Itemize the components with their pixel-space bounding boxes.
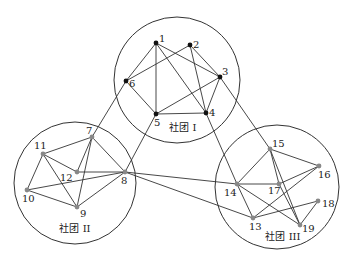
node-3-label: 3 <box>222 66 228 77</box>
node-19-label: 19 <box>302 223 315 234</box>
node-1 <box>154 41 159 46</box>
node-15-label: 15 <box>272 138 285 149</box>
node-13-label: 13 <box>249 221 262 232</box>
node-13 <box>251 216 256 221</box>
node-12 <box>75 170 80 175</box>
edge-11-10 <box>27 154 43 190</box>
node-2-label: 2 <box>193 39 199 50</box>
node-7-label: 7 <box>86 125 92 136</box>
community-I-label: 社团 I <box>169 121 196 133</box>
edge-11-12 <box>43 154 77 172</box>
node-2 <box>188 43 193 48</box>
community-network-diagram: 12345678910111213141516171819 社团 I社团 II社… <box>0 0 352 261</box>
edge-7-12 <box>77 137 92 172</box>
node-4-label: 4 <box>209 107 215 118</box>
node-14 <box>235 182 240 187</box>
edge-5-8 <box>125 114 156 172</box>
edge-3-15 <box>220 77 270 149</box>
edge-2-4 <box>190 45 206 113</box>
node-11-label: 11 <box>34 140 47 151</box>
node-11 <box>41 152 46 157</box>
node-6-label: 6 <box>129 78 135 89</box>
edge-15-14 <box>237 149 270 184</box>
node-8 <box>123 170 128 175</box>
edge-15-17 <box>270 149 279 184</box>
edge-15-16 <box>270 149 319 166</box>
edge-9-8 <box>77 172 125 207</box>
edge-17-19 <box>279 184 300 225</box>
node-18-label: 18 <box>322 198 335 209</box>
edge-4-14 <box>206 113 237 184</box>
edge-2-6 <box>126 45 190 81</box>
community-III-label: 社团 III <box>265 230 300 242</box>
edge-1-6 <box>126 43 156 81</box>
edge-1-3 <box>156 43 220 77</box>
node-5-label: 5 <box>154 117 160 128</box>
edge-7-11 <box>43 137 92 154</box>
community-II-label: 社团 II <box>59 222 90 234</box>
node-9-label: 9 <box>80 208 86 219</box>
community-labels: 社团 I社团 II社团 III <box>59 121 300 242</box>
community-circles <box>14 17 339 249</box>
edge-10-8 <box>27 172 125 190</box>
node-16 <box>317 164 322 169</box>
node-12-label: 12 <box>60 172 73 183</box>
graph-edges <box>27 43 319 225</box>
node-8-label: 8 <box>121 175 127 186</box>
node-17-label: 17 <box>268 185 281 196</box>
node-10 <box>25 188 30 193</box>
node-4 <box>204 111 209 116</box>
node-18 <box>316 199 321 204</box>
node-5 <box>154 112 159 117</box>
node-10-label: 10 <box>22 193 35 204</box>
node-16-label: 16 <box>318 169 331 180</box>
node-14-label: 14 <box>224 187 237 198</box>
node-6 <box>124 79 129 84</box>
node-1-label: 1 <box>159 33 165 44</box>
node-9 <box>75 205 80 210</box>
edge-4-5 <box>156 113 206 114</box>
edge-13-16 <box>253 166 319 218</box>
